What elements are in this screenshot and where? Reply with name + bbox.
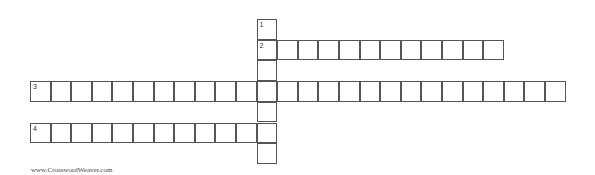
crossword-cell[interactable] xyxy=(174,123,195,144)
crossword-cell[interactable] xyxy=(257,81,278,102)
crossword-cell[interactable] xyxy=(51,123,72,144)
crossword-cell[interactable] xyxy=(298,81,319,102)
crossword-cell[interactable]: 1 xyxy=(257,19,278,40)
crossword-cell[interactable] xyxy=(195,123,216,144)
crossword-cell[interactable] xyxy=(360,40,381,61)
crossword-cell[interactable] xyxy=(257,123,278,144)
crossword-cell[interactable] xyxy=(277,81,298,102)
crossword-cell[interactable] xyxy=(257,60,278,81)
crossword-cell[interactable] xyxy=(463,40,484,61)
crossword-cell[interactable] xyxy=(112,81,133,102)
crossword-cell[interactable] xyxy=(318,81,339,102)
clue-number: 3 xyxy=(33,83,37,90)
crossword-cell[interactable] xyxy=(401,81,422,102)
crossword-cell[interactable] xyxy=(133,123,154,144)
crossword-cell[interactable] xyxy=(380,40,401,61)
crossword-cell[interactable] xyxy=(236,81,257,102)
crossword-cell[interactable] xyxy=(339,81,360,102)
crossword-cell[interactable] xyxy=(257,143,278,164)
crossword-cell[interactable] xyxy=(380,81,401,102)
crossword-cell[interactable] xyxy=(524,81,545,102)
crossword-cell[interactable]: 2 xyxy=(257,40,278,61)
crossword-cell[interactable] xyxy=(215,123,236,144)
crossword-cell[interactable] xyxy=(401,40,422,61)
crossword-cell[interactable] xyxy=(133,81,154,102)
crossword-cell[interactable]: 3 xyxy=(30,81,51,102)
crossword-cell[interactable] xyxy=(92,123,113,144)
footer-credit: www.CrosswordWeaver.com xyxy=(31,166,112,174)
crossword-cell[interactable] xyxy=(442,40,463,61)
crossword-cell[interactable] xyxy=(51,81,72,102)
crossword-cell[interactable] xyxy=(442,81,463,102)
crossword-cell[interactable] xyxy=(195,81,216,102)
clue-number: 1 xyxy=(260,21,264,28)
crossword-cell[interactable] xyxy=(71,81,92,102)
crossword-grid: 1234 xyxy=(0,0,595,175)
crossword-cell[interactable] xyxy=(71,123,92,144)
crossword-cell[interactable] xyxy=(483,81,504,102)
crossword-cell[interactable] xyxy=(421,81,442,102)
clue-number: 2 xyxy=(260,42,264,49)
crossword-cell[interactable] xyxy=(92,81,113,102)
crossword-cell[interactable] xyxy=(318,40,339,61)
clue-number: 4 xyxy=(33,125,37,132)
crossword-cell[interactable] xyxy=(298,40,319,61)
crossword-cell[interactable] xyxy=(339,40,360,61)
crossword-cell[interactable] xyxy=(504,81,525,102)
crossword-cell[interactable] xyxy=(360,81,381,102)
crossword-cell[interactable]: 4 xyxy=(30,123,51,144)
crossword-cell[interactable] xyxy=(421,40,442,61)
crossword-cell[interactable] xyxy=(236,123,257,144)
crossword-cell[interactable] xyxy=(215,81,236,102)
crossword-cell[interactable] xyxy=(483,40,504,61)
crossword-cell[interactable] xyxy=(257,102,278,123)
crossword-cell[interactable] xyxy=(463,81,484,102)
crossword-cell[interactable] xyxy=(277,40,298,61)
crossword-cell[interactable] xyxy=(154,81,175,102)
crossword-cell[interactable] xyxy=(112,123,133,144)
crossword-cell[interactable] xyxy=(545,81,566,102)
crossword-cell[interactable] xyxy=(154,123,175,144)
crossword-cell[interactable] xyxy=(174,81,195,102)
